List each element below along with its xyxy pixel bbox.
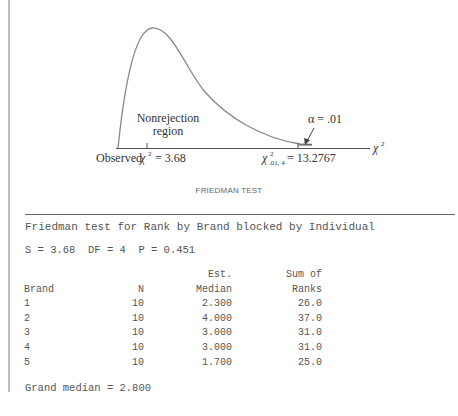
cell-median: 4.000: [144, 312, 232, 327]
alpha-arrow-line: [307, 128, 314, 141]
distribution-curve: [118, 28, 312, 148]
cell-ranks: 31.0: [232, 341, 322, 356]
alpha-label: α = .01: [308, 112, 342, 126]
header-ranks: Ranks: [232, 283, 322, 298]
header-top-median: Est.: [144, 268, 232, 283]
test-statistics: S = 3.68 DF = 4 P = 0.451: [25, 244, 195, 256]
header-brand: Brand: [24, 283, 94, 298]
critical-chi-subscript: .01, 4: [269, 159, 285, 167]
observed-label: Observed: [96, 151, 142, 165]
header-top-n: [94, 268, 144, 283]
cell-brand: 1: [24, 297, 94, 312]
cell-n: 10: [94, 297, 144, 312]
figure-caption: FRIEDMAN TEST: [0, 186, 458, 195]
axis-chi-exponent: 2: [381, 140, 385, 148]
section-divider: [25, 214, 455, 215]
cell-n: 10: [94, 312, 144, 327]
cell-brand: 2: [24, 312, 94, 327]
observed-chi-symbol: χ: [139, 151, 146, 165]
critical-chi-exponent: 2: [270, 150, 274, 158]
cell-n: 10: [94, 341, 144, 356]
table-row: 4 10 3.000 31.0: [24, 341, 322, 356]
cell-median: 1.700: [144, 356, 232, 371]
cell-n: 10: [94, 356, 144, 371]
observed-chi-exponent: 2: [148, 150, 152, 158]
results-table: Est. Sum of Brand N Median Ranks 1 10 2.…: [24, 268, 322, 370]
critical-chi-symbol: χ: [261, 151, 268, 165]
observed-value: = 3.68: [155, 151, 186, 165]
output-title: Friedman test for Rank by Brand blocked …: [25, 221, 375, 233]
cell-brand: 4: [24, 341, 94, 356]
table-row: 3 10 3.000 31.0: [24, 326, 322, 341]
nonrejection-label-line1: Nonrejection: [137, 111, 200, 125]
table-header-row-top: Est. Sum of: [24, 268, 322, 283]
cell-median: 3.000: [144, 326, 232, 341]
table-header-row: Brand N Median Ranks: [24, 283, 322, 298]
cell-brand: 5: [24, 356, 94, 371]
chi-square-distribution-figure: Nonrejection region α = .01 χ 2 Observed…: [0, 0, 458, 180]
cell-median: 3.000: [144, 341, 232, 356]
cell-ranks: 37.0: [232, 312, 322, 327]
header-n: N: [94, 283, 144, 298]
table-row: 2 10 4.000 37.0: [24, 312, 322, 327]
table-row: 1 10 2.300 26.0: [24, 297, 322, 312]
cell-median: 2.300: [144, 297, 232, 312]
cell-n: 10: [94, 326, 144, 341]
cell-brand: 3: [24, 326, 94, 341]
table-row: 5 10 1.700 25.0: [24, 356, 322, 371]
cell-ranks: 31.0: [232, 326, 322, 341]
nonrejection-label-line2: region: [153, 124, 184, 138]
grand-median: Grand median = 2.800: [25, 382, 151, 394]
axis-chi-label: χ: [372, 141, 379, 155]
header-top-brand: [24, 268, 94, 283]
critical-value: = 13.2767: [287, 151, 336, 165]
header-top-ranks: Sum of: [232, 268, 322, 283]
cell-ranks: 25.0: [232, 356, 322, 371]
cell-ranks: 26.0: [232, 297, 322, 312]
header-median: Median: [144, 283, 232, 298]
